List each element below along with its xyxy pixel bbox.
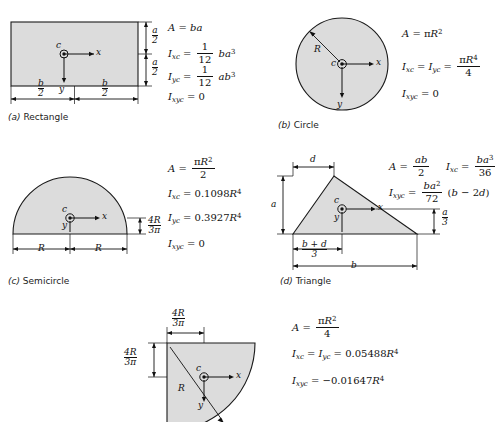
rect-centroid-dot [62,52,65,55]
qc-y-axis-label: y [198,400,203,410]
rect-dim-half-height-top-num: a [152,26,158,35]
tri-dim-d-arrow-l [293,165,298,169]
circle-y-axis-label: y [337,99,342,109]
tri-dim-d-arrow-r [329,165,334,169]
qc-radius-arrowhead [218,418,225,422]
qc-dim-vert-arrow-up [152,343,156,348]
circle-eq-ixc-sub: xc [406,66,414,74]
caption-circle-label: (b) [278,120,291,130]
semi-dim-centroid-offset-num: 4R [148,216,161,225]
rect-dim-half-width-right: b 2 [102,79,108,99]
rect-dim-half-width-left-den: 2 [38,88,44,99]
rect-dim-arrow-r2 [133,97,138,101]
qc-eq-ixc-value: 0.05488 [345,348,386,359]
tri-dim-a-arrow-dn [281,229,285,234]
semi-dim-arrow-r2 [122,247,127,251]
rect-dim-half-height-top-den: 2 [152,35,158,46]
qc-eq-ixyc-minus: − [323,375,331,386]
rect-dim-arrow-dn2 [144,81,148,86]
caption-triangle-label: (d) [280,276,293,286]
figure-quarter-circle: R c x y 4R 3π 4R 3π A = πR24 Ixc = Iyc =… [100,295,493,422]
tri-dim-b-arrow-l [293,264,298,268]
caption-rectangle-name: Rectangle [23,112,68,122]
qc-dim-centroid-y: 4R 3π [124,348,137,368]
tri-eq-ixyc: Ixyc = ba272 (b − 2d) [389,182,489,205]
tri-dim-d-label: d [310,154,316,164]
qc-dim-centroid-x-num: 4R [172,309,185,318]
rect-dim-half-width-right-num: b [102,79,108,88]
tri-dim-bd3-den: 3 [302,249,327,260]
semi-dim-arrow-l1 [13,247,18,251]
qc-x-axis-label: x [236,370,241,380]
tri-dim-b-arrow-r [412,264,417,268]
tri-dim-a3-num: a [442,208,448,217]
tri-y-axis-label: y [334,212,339,222]
tri-dim-a3-arrow-up [432,209,436,214]
rect-dim-half-height-bottom: a 2 [152,58,158,78]
tri-dim-bd3-arrow-r [337,247,342,251]
qc-dim-horiz-arrow-l [167,331,172,335]
tri-dim-a-arrow-up [281,176,285,181]
tri-x-axis-label: x [378,202,383,212]
tri-dim-a3-arrow-dn [432,230,436,235]
qc-dim-centroid-x: 4R 3π [172,309,185,329]
qc-eq-area: A = πR24 [292,317,341,340]
semi-eq-iyc: Iyc = 0.3927R4 [168,212,242,225]
qc-dim-vert-arrow-dn [152,372,156,377]
rect-dim-half-height-top: a 2 [152,26,158,46]
qc-dim-centroid-x-den: 3π [172,318,185,329]
semi-dim-centroid-offset: 4R 3π [148,216,161,236]
qc-eq-ixyc: Ixyc = −0.01647R4 [292,375,384,388]
caption-circle: (b) Circle [278,120,319,130]
rect-dim-half-width-right-den: 2 [102,88,108,99]
qc-dim-centroid-y-den: 3π [124,357,137,368]
tri-dim-bd3-arrow-l [293,247,298,251]
qc-eq-iyc-sub: yc [323,353,331,361]
qc-centroid-label: c [196,363,201,373]
semi-dim-radius-left-label: R [38,243,45,253]
semi-dim-radius-right-label: R [95,243,102,253]
rect-eq-ixyc-sub: xyc [172,96,184,104]
figure-triangle: d a c x y b a 3 b + d 3 A = ab2 Ixc = ba… [250,150,493,295]
circle-eq-ixc-iyc: Ixc = Iyc = πR44 [402,56,482,79]
qc-eq-ixc-iyc: Ixc = Iyc = 0.05488R4 [292,348,399,361]
qc-dim-horiz-arrow-r [199,331,204,335]
semi-dim-centroid-offset-den: 3π [148,225,161,236]
qc-eq-ixyc-sub: xyc [296,380,308,388]
semi-centroid-dot [68,216,71,219]
tri-dim-a3: a 3 [442,208,448,228]
rect-eq-ixc: Ixc = 112 ba3 [168,43,235,66]
rect-dim-arrow-l1 [11,97,16,101]
tri-centroid-label: c [334,195,339,205]
rect-dim-arrow-up1 [144,22,148,27]
qc-eq-ixc-sub: xc [296,353,304,361]
semi-eq-ixc-value: 0.1098 [195,188,230,199]
rect-dim-arrow-l2 [75,97,80,101]
rect-dim-arrow-r1 [70,97,75,101]
qc-radius-label: R [178,383,185,393]
tri-dim-bd3: b + d 3 [302,240,327,260]
circle-centroid-label: c [331,58,336,68]
circle-eq-num-pi: π [459,54,466,65]
caption-semicircle: (c) Semicircle [8,276,69,286]
rect-eq-iyc-sub: yc [172,76,180,84]
semi-eq-iyc-sub: yc [172,217,180,225]
qc-centroid-dot [202,375,205,378]
semi-dim-arrow-l2 [70,247,75,251]
semi-eq-area: A = πR22 [168,158,217,181]
caption-circle-name: Circle [294,120,319,130]
semi-eq-ixc: Ixc = 0.1098R4 [168,188,242,201]
tri-dim-a3-den: 3 [442,217,448,228]
circle-eq-area-pi: π [424,28,431,39]
semi-y-axis-label: y [62,220,67,230]
semi-x-axis-label: x [102,211,107,221]
figure-circle: R c x y A = πR2 Ixc = Iyc = πR44 Ixyc = … [250,0,493,140]
qc-dim-centroid-y-num: 4R [124,348,137,357]
semi-dim-arrow-up [138,218,142,223]
caption-semicircle-name: Semicircle [23,276,69,286]
caption-triangle: (d) Triangle [280,276,331,286]
semi-eq-ixyc: Ixyc = 0 [168,238,205,251]
semi-eq-ixc-sub: xc [172,193,180,201]
rect-dim-half-width-left-num: b [38,79,44,88]
tri-dim-b-label: b [351,260,357,270]
